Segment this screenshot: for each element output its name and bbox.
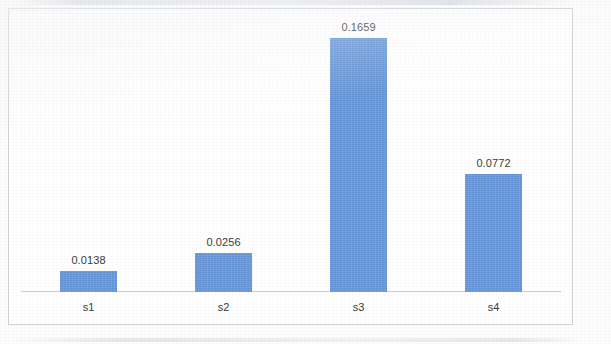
category-label: s4: [488, 301, 500, 313]
bar-value-label: 0.1659: [341, 21, 375, 33]
category-label: s3: [353, 301, 365, 313]
bar-series: 0.01380.02560.16590.0772: [21, 9, 561, 292]
bar: [330, 38, 387, 292]
bar: [60, 271, 117, 292]
scanned-page: 0.01380.02560.16590.0772 s1s2s3s4: [0, 0, 611, 344]
bar-value-label: 0.0772: [476, 157, 510, 169]
scan-artifact-bottom: [10, 338, 585, 342]
bar-column: 0.0256: [195, 9, 252, 292]
bar-column: 0.0138: [60, 9, 117, 292]
bar: [465, 174, 522, 292]
category-label: s2: [218, 301, 230, 313]
scan-artifact-top: [14, 0, 574, 5]
bar-column: 0.0772: [465, 9, 522, 292]
category-axis-labels: s1s2s3s4: [21, 301, 561, 321]
plot-area: 0.01380.02560.16590.0772 s1s2s3s4: [9, 9, 572, 324]
category-label: s1: [83, 301, 95, 313]
bar-value-label: 0.0256: [206, 236, 240, 248]
bar: [195, 253, 252, 292]
bar-column: 0.1659: [330, 9, 387, 292]
bar-value-label: 0.0138: [71, 254, 105, 266]
chart-frame: 0.01380.02560.16590.0772 s1s2s3s4: [8, 8, 573, 325]
